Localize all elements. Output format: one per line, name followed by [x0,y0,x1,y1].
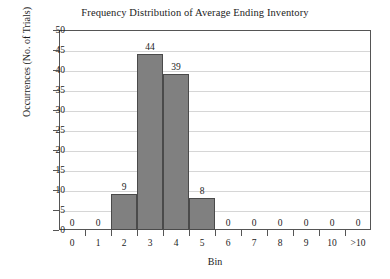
bar-value-label: 0 [330,218,335,228]
bar-cell[interactable]: 0 [59,30,85,230]
x-tick-label: 0 [70,238,75,248]
chart-figure: Frequency Distribution of Average Ending… [0,0,390,279]
bar-value-label: 44 [145,42,155,52]
y-tick-mark [53,230,59,231]
bar-value-label: 0 [278,218,283,228]
x-tick-label: 8 [278,238,283,248]
x-tick-mark [215,230,216,236]
x-tick-label: 7 [252,238,257,248]
x-tick-label: 10 [327,238,337,248]
bar[interactable] [137,54,163,230]
bar-cell[interactable]: 39 [163,30,189,230]
x-tick-mark [163,230,164,236]
bar-value-label: 0 [304,218,309,228]
bar-value-label: 0 [226,218,231,228]
x-tick-label: 5 [200,238,205,248]
bar[interactable] [189,198,215,230]
bar-value-label: 8 [200,186,205,196]
bar[interactable] [163,74,189,230]
x-tick-label: 4 [174,238,179,248]
x-tick-mark [319,230,320,236]
bar-value-label: 39 [171,62,181,72]
bar-value-label: 0 [252,218,257,228]
bar[interactable] [111,194,137,230]
x-tick-mark [85,230,86,236]
x-tick-label: 1 [96,238,101,248]
x-tick-label: 9 [304,238,309,248]
bar-cell[interactable]: 0 [319,30,345,230]
bar-value-label: 0 [70,218,75,228]
bar-cell[interactable]: 9 [111,30,137,230]
bar-value-label: 0 [96,218,101,228]
x-tick-mark [345,230,346,236]
chart-title: Frequency Distribution of Average Ending… [0,7,390,18]
x-tick-label: >10 [351,238,366,248]
x-tick-mark [267,230,268,236]
x-tick-label: 2 [122,238,127,248]
bar-cell[interactable]: 44 [137,30,163,230]
x-axis-title: Bin [59,256,371,267]
bar-value-label: 9 [122,182,127,192]
bar-series: 00944398000000 [59,30,371,230]
bar-cell[interactable]: 0 [267,30,293,230]
bar-cell[interactable]: 0 [85,30,111,230]
x-tick-label: 6 [226,238,231,248]
bar-value-label: 0 [356,218,361,228]
x-tick-mark [137,230,138,236]
x-tick-mark [241,230,242,236]
bar-cell[interactable]: 0 [241,30,267,230]
x-tick-mark [111,230,112,236]
bar-cell[interactable]: 0 [215,30,241,230]
x-tick-mark [293,230,294,236]
bar-cell[interactable]: 8 [189,30,215,230]
x-tick-mark [189,230,190,236]
bar-cell[interactable]: 0 [345,30,371,230]
bar-cell[interactable]: 0 [293,30,319,230]
x-tick-label: 3 [148,238,153,248]
